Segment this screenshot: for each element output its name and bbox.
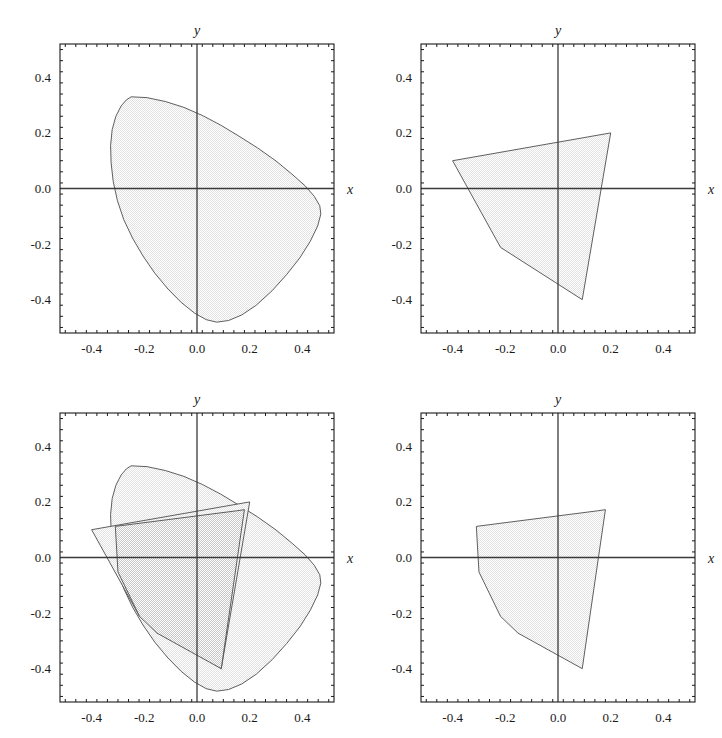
x-tick-label: 0.2 xyxy=(603,341,619,356)
y-axis-label: y xyxy=(553,392,562,407)
y-tick-label: 0.0 xyxy=(396,181,412,196)
x-axis-label: x xyxy=(346,551,354,566)
y-tick-label: -0.2 xyxy=(30,606,51,621)
x-tick-label: -0.4 xyxy=(81,710,102,725)
y-tick-label: 0.4 xyxy=(35,439,52,454)
y-tick-label: 0.4 xyxy=(396,439,413,454)
y-tick-label: -0.4 xyxy=(30,661,51,676)
y-tick-label: 0.0 xyxy=(35,550,51,565)
x-tick-label: 0.0 xyxy=(189,341,205,356)
x-tick-label: -0.4 xyxy=(442,341,463,356)
x-tick-label: 0.2 xyxy=(242,341,258,356)
panel-bottom-left: -0.4-0.20.00.20.4-0.4-0.20.00.20.4xy xyxy=(0,369,361,738)
x-tick-label: 0.4 xyxy=(655,710,672,725)
y-tick-label: 0.2 xyxy=(396,494,412,509)
y-tick-label: -0.2 xyxy=(391,606,412,621)
x-tick-label: -0.4 xyxy=(442,710,463,725)
y-tick-label: 0.2 xyxy=(35,125,51,140)
y-axis-label: y xyxy=(553,23,562,38)
x-tick-label: 0.4 xyxy=(294,341,311,356)
panel-top-left: -0.4-0.20.00.20.4-0.4-0.20.00.20.4xy xyxy=(0,0,361,369)
figure-grid: -0.4-0.20.00.20.4-0.4-0.20.00.20.4xy-0.4… xyxy=(0,0,722,738)
y-axis-label: y xyxy=(192,23,201,38)
y-tick-label: -0.4 xyxy=(30,292,51,307)
y-tick-label: 0.4 xyxy=(396,70,413,85)
y-tick-label: -0.2 xyxy=(30,237,51,252)
x-axis-label: x xyxy=(707,182,715,197)
x-tick-label: -0.2 xyxy=(495,341,516,356)
x-tick-label: 0.0 xyxy=(550,710,566,725)
x-tick-label: -0.2 xyxy=(495,710,516,725)
y-tick-label: 0.0 xyxy=(35,181,51,196)
x-tick-label: 0.0 xyxy=(189,710,205,725)
y-tick-label: -0.4 xyxy=(391,661,412,676)
x-tick-label: 0.2 xyxy=(242,710,258,725)
x-tick-label: 0.2 xyxy=(603,710,619,725)
x-tick-label: -0.4 xyxy=(81,341,102,356)
x-tick-label: -0.2 xyxy=(134,341,155,356)
y-tick-label: 0.4 xyxy=(35,70,52,85)
y-tick-label: 0.0 xyxy=(396,550,412,565)
x-tick-label: 0.4 xyxy=(294,710,311,725)
y-tick-label: 0.2 xyxy=(396,125,412,140)
x-axis-label: x xyxy=(707,551,715,566)
panel-bottom-right: -0.4-0.20.00.20.4-0.4-0.20.00.20.4xy xyxy=(361,369,722,738)
y-tick-label: -0.4 xyxy=(391,292,412,307)
x-tick-label: 0.0 xyxy=(550,341,566,356)
panel-top-right: -0.4-0.20.00.20.4-0.4-0.20.00.20.4xy xyxy=(361,0,722,369)
x-tick-label: -0.2 xyxy=(134,710,155,725)
y-tick-label: -0.2 xyxy=(391,237,412,252)
x-axis-label: x xyxy=(346,182,354,197)
y-axis-label: y xyxy=(192,392,201,407)
x-tick-label: 0.4 xyxy=(655,341,672,356)
y-tick-label: 0.2 xyxy=(35,494,51,509)
